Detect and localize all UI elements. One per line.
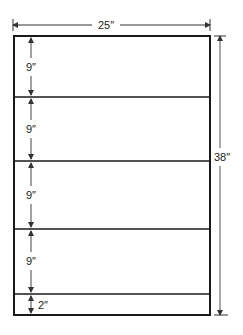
section-3-label: 9″: [26, 189, 36, 201]
width-label: 25″: [98, 19, 114, 31]
section-1-dimension: 9″: [26, 38, 36, 95]
layout-diagram: 25″ 9″ 9″ 9″ 9″ 2″ 38″: [0, 0, 243, 335]
section-2-dimension: 9″: [26, 99, 36, 159]
section-3-dimension: 9″: [26, 163, 36, 227]
section-4-label: 9″: [26, 255, 36, 267]
section-1-label: 9″: [26, 61, 36, 73]
outer-frame: [14, 36, 210, 315]
height-dimension: 38″: [214, 36, 230, 315]
width-dimension: 25″: [13, 19, 210, 31]
section-5-dimension: 2″: [31, 296, 48, 313]
section-2-label: 9″: [26, 123, 36, 135]
section-4-dimension: 9″: [26, 231, 36, 292]
section-5-label: 2″: [38, 299, 48, 311]
height-label: 38″: [214, 151, 230, 163]
